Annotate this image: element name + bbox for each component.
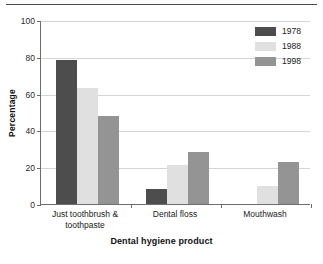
bar-chart-figure: Percentage 020406080100 Just toothbrush … bbox=[0, 8, 323, 264]
x-tick-mark bbox=[221, 204, 222, 208]
y-tick-mark bbox=[37, 168, 41, 169]
chart-legend: 197819881998 bbox=[255, 26, 301, 66]
bar bbox=[257, 186, 278, 204]
bar bbox=[56, 60, 77, 204]
bar bbox=[77, 88, 98, 204]
bar bbox=[146, 189, 167, 204]
legend-label: 1978 bbox=[282, 27, 301, 36]
x-tick-mark bbox=[131, 204, 132, 208]
legend-item[interactable]: 1988 bbox=[255, 41, 301, 51]
y-tick-label: 20 bbox=[26, 163, 35, 173]
legend-swatch bbox=[255, 42, 276, 51]
bar bbox=[167, 165, 188, 204]
y-tick-mark bbox=[37, 95, 41, 96]
x-tick-label: Dental floss bbox=[130, 209, 220, 220]
y-axis-title: Percentage bbox=[7, 68, 17, 158]
y-tick-label: 40 bbox=[26, 126, 35, 136]
legend-item[interactable]: 1998 bbox=[255, 56, 301, 66]
top-divider bbox=[6, 4, 317, 5]
y-tick-label: 60 bbox=[26, 90, 35, 100]
bar bbox=[98, 116, 119, 204]
x-axis-title: Dental hygiene product bbox=[0, 236, 323, 246]
y-tick-mark bbox=[37, 21, 41, 22]
y-tick-mark bbox=[37, 205, 41, 206]
y-tick-mark bbox=[37, 131, 41, 132]
x-tick-label: Just toothbrush & toothpaste bbox=[40, 209, 130, 231]
bar bbox=[188, 152, 209, 204]
bar-group bbox=[146, 21, 209, 204]
legend-label: 1988 bbox=[282, 42, 301, 51]
legend-swatch bbox=[255, 27, 276, 36]
y-tick-label: 0 bbox=[30, 200, 35, 210]
bar bbox=[278, 162, 299, 204]
legend-label: 1998 bbox=[282, 57, 301, 66]
y-tick-label: 80 bbox=[26, 53, 35, 63]
legend-item[interactable]: 1978 bbox=[255, 26, 301, 36]
bar-group bbox=[56, 21, 119, 204]
x-tick-label: Mouthwash bbox=[220, 209, 310, 220]
legend-swatch bbox=[255, 57, 276, 66]
y-tick-label: 100 bbox=[21, 16, 35, 26]
y-tick-mark bbox=[37, 58, 41, 59]
x-tick-mark bbox=[311, 204, 312, 208]
